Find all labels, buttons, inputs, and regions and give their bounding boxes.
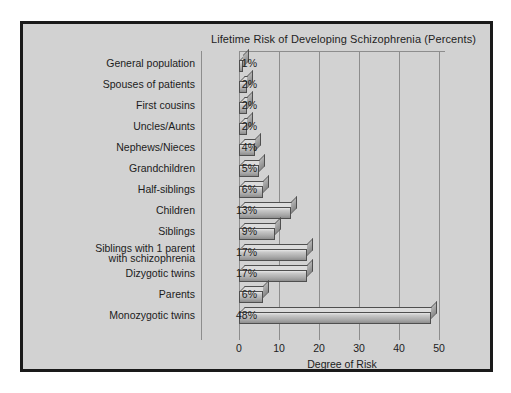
chart-title: Lifetime Risk of Developing Schizophreni… <box>211 33 476 45</box>
chart-row: Siblings with 1 parentwith schizophrenia… <box>23 242 490 263</box>
category-label: Siblings with 1 parentwith schizophrenia <box>0 242 195 264</box>
value-label: 6% <box>209 179 257 200</box>
value-label: 5% <box>209 158 257 179</box>
value-label: 48% <box>209 305 257 326</box>
category-label: Nephews/Nieces <box>0 137 195 158</box>
figure-canvas: Lifetime Risk of Developing Schizophreni… <box>0 0 511 393</box>
chart-frame: Lifetime Risk of Developing Schizophreni… <box>20 21 493 372</box>
value-label: 9% <box>209 221 257 242</box>
x-axis-ticks: 01020304050 <box>239 342 469 358</box>
chart-row: Uncles/Aunts2% <box>23 116 490 137</box>
category-label: Half-siblings <box>0 179 195 200</box>
category-label-line2: with schizophrenia <box>109 253 195 264</box>
value-label: 4% <box>209 137 257 158</box>
chart-row: General population1% <box>23 53 490 74</box>
x-axis-label: Degree of Risk <box>239 358 445 370</box>
category-label: Spouses of patients <box>0 74 195 95</box>
value-label: 6% <box>209 284 257 305</box>
category-label: Monozygotic twins <box>0 305 195 326</box>
chart-row: Half-siblings6% <box>23 179 490 200</box>
x-tick-label-40: 40 <box>384 342 414 354</box>
value-label: 2% <box>209 95 257 116</box>
category-label: Parents <box>0 284 195 305</box>
category-label: First cousins <box>0 95 195 116</box>
value-label: 13% <box>209 200 257 221</box>
category-label: Grandchildren <box>0 158 195 179</box>
category-label: Children <box>0 200 195 221</box>
chart-row: Spouses of patients2% <box>23 74 490 95</box>
chart-row: First cousins2% <box>23 95 490 116</box>
x-tick-label-10: 10 <box>264 342 294 354</box>
value-label: 2% <box>209 74 257 95</box>
chart-row: Siblings9% <box>23 221 490 242</box>
category-label: Uncles/Aunts <box>0 116 195 137</box>
chart-row: Grandchildren5% <box>23 158 490 179</box>
category-label: Dizygotic twins <box>0 263 195 284</box>
value-label: 1% <box>209 53 257 74</box>
x-tick-label-0: 0 <box>224 342 254 354</box>
x-tick-label-30: 30 <box>344 342 374 354</box>
chart-row: Children13% <box>23 200 490 221</box>
plot-top-rule <box>239 51 445 52</box>
value-label: 17% <box>209 242 257 263</box>
chart-row: Monozygotic twins48% <box>23 305 490 326</box>
x-tick-label-50: 50 <box>424 342 454 354</box>
category-label: Siblings <box>0 221 195 242</box>
chart-row: Parents6% <box>23 284 490 305</box>
chart-row: Dizygotic twins17% <box>23 263 490 284</box>
category-label: General population <box>0 53 195 74</box>
value-label: 2% <box>209 116 257 137</box>
chart-row: Nephews/Nieces4% <box>23 137 490 158</box>
category-rows: General population1%Spouses of patients2… <box>23 53 490 340</box>
value-label: 17% <box>209 263 257 284</box>
x-tick-label-20: 20 <box>304 342 334 354</box>
